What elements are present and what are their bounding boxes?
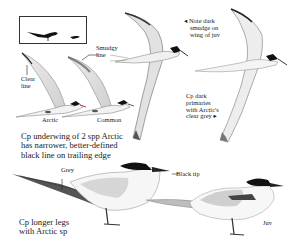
tern-id-plate: Smudgy line Clear line Arctic Common ◂ N… (0, 0, 293, 248)
standing-adult-tern-illustration (12, 162, 170, 225)
label-juv: Juv (263, 220, 272, 227)
label-common: Common (97, 117, 121, 124)
caption-longer-legs: Cp longer legs with Arctic sp (19, 218, 69, 237)
label-note-dark-smudge: ◂ Note dark smudge on wing of juv (184, 18, 220, 38)
caption-underwing-comparison: Cp underwing of 2 spp Arctic has narrowe… (21, 132, 123, 160)
label-black-tip: Black tip (176, 171, 200, 178)
label-clear-line: Clear line (21, 76, 35, 90)
label-cp-dark-primaries: Cp dark primaries with Arctic's clear gr… (186, 93, 219, 120)
label-grey: Grey (61, 167, 74, 174)
central-flying-tern-illustration (110, 13, 188, 140)
label-smudgy-line: Smudgy line (96, 45, 118, 59)
inset-silhouette-box (19, 16, 87, 44)
label-arctic: Arctic (42, 117, 58, 124)
